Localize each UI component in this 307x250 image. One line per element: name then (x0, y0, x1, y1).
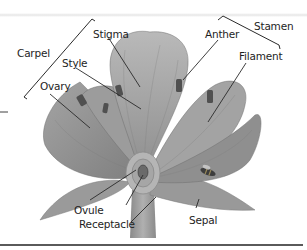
label-ovary: Ovary (40, 81, 70, 92)
label-carpel: Carpel (17, 48, 50, 59)
label-style: Style (62, 58, 87, 69)
label-anther: Anther (205, 29, 239, 40)
label-stigma: Stigma (93, 29, 129, 40)
bottom-divider (0, 244, 303, 246)
label-ovule: Ovule (74, 205, 104, 216)
flower-diagram: Carpel Stigma Style Ovary Anther Stamen … (0, 0, 307, 250)
label-sepal: Sepal (189, 215, 217, 226)
label-filament: Filament (239, 51, 282, 62)
label-receptacle: Receptacle (79, 219, 135, 230)
flower-illustration (0, 0, 307, 250)
stem (130, 190, 156, 238)
label-stamen: Stamen (254, 21, 293, 32)
ovule (138, 165, 148, 179)
